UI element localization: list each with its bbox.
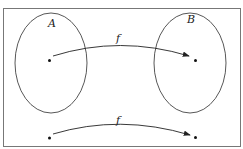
point-bottom-left [48,137,51,140]
function-diagram: A B f f [0,0,243,149]
set-b-label: B [186,13,195,26]
set-b-ellipse [154,13,226,113]
point-a [48,59,51,62]
point-bottom-right [194,136,197,139]
arrow-f-bottom-label: f [115,114,122,127]
set-a-label: A [47,17,56,30]
point-b [194,59,197,62]
arrow-f-top-label: f [115,32,122,45]
frame [4,9,241,147]
arrow-f-bottom [53,124,190,135]
arrow-f-top [53,46,189,57]
